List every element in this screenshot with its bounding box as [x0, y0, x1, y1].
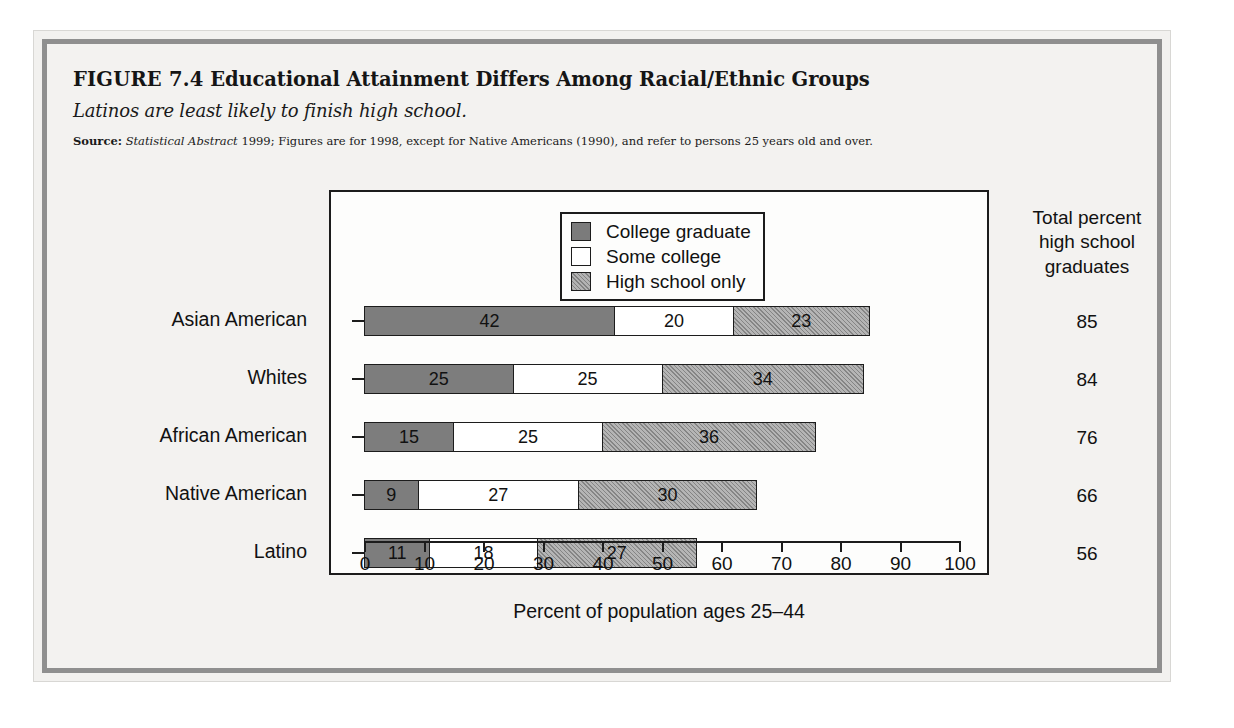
- figure-source: Source: Statistical Abstract 1999; Figur…: [73, 134, 1137, 148]
- bar-segment-african-american-high-school-only: 36: [602, 422, 816, 452]
- y-tick-whites: [352, 378, 364, 380]
- bar-segment-whites-some-college: 25: [513, 364, 662, 394]
- bar-value-native-american-college-graduate: 9: [386, 486, 396, 504]
- bar-row-african-american: 15 25 36: [364, 422, 816, 452]
- chart-plot-area: College graduate Some college High schoo…: [329, 190, 989, 575]
- totals-column-header: Total percent high school graduates: [997, 206, 1177, 279]
- bar-value-whites-some-college: 25: [578, 370, 598, 388]
- bar-value-whites-high-school-only: 34: [753, 370, 773, 388]
- bar-row-native-american: 9 27 30: [364, 480, 757, 510]
- x-tick-label-60: 60: [711, 553, 732, 575]
- y-tick-african-american: [352, 436, 364, 438]
- x-tick-label-30: 30: [533, 553, 554, 575]
- bar-value-latino-college-graduate: 11: [388, 544, 407, 562]
- bar-segment-asian-american-high-school-only: 23: [733, 306, 870, 336]
- x-tick-label-80: 80: [830, 553, 851, 575]
- figure-inner-border: FIGURE 7.4 Educational Attainment Differ…: [42, 39, 1162, 673]
- x-tick-20: [483, 541, 485, 552]
- x-tick-label-90: 90: [890, 553, 911, 575]
- figure-title: FIGURE 7.4 Educational Attainment Differ…: [73, 68, 1137, 91]
- x-tick-90: [900, 541, 902, 552]
- bar-segment-native-american-college-graduate: 9: [364, 480, 418, 510]
- bar-value-asian-american-some-college: 20: [664, 312, 684, 330]
- total-value-latino: 56: [997, 544, 1177, 563]
- bar-value-native-american-some-college: 27: [488, 486, 508, 504]
- x-tick-label-0: 0: [360, 553, 371, 575]
- x-tick-label-20: 20: [473, 553, 494, 575]
- total-value-asian-american: 85: [997, 312, 1177, 331]
- bar-row-asian-american: 42 20 23: [364, 306, 870, 336]
- bar-segment-asian-american-some-college: 20: [614, 306, 733, 336]
- bar-segment-whites-high-school-only: 34: [662, 364, 864, 394]
- bar-segment-native-american-high-school-only: 30: [578, 480, 757, 510]
- bar-segment-african-american-college-graduate: 15: [364, 422, 453, 452]
- y-tick-native-american: [352, 494, 364, 496]
- total-value-whites: 84: [997, 370, 1177, 389]
- totals-column: Total percent high school graduates 85 8…: [997, 190, 1177, 575]
- x-axis-title: Percent of population ages 25–44: [329, 600, 989, 623]
- bar-value-whites-college-graduate: 25: [429, 370, 449, 388]
- x-tick-label-40: 40: [592, 553, 613, 575]
- bar-value-african-american-college-graduate: 15: [399, 428, 419, 446]
- figure-subtitle: Latinos are least likely to finish high …: [73, 100, 1137, 121]
- source-detail: 1999; Figures are for 1998, except for N…: [241, 134, 872, 148]
- bar-value-african-american-high-school-only: 36: [699, 428, 719, 446]
- x-tick-70: [781, 541, 783, 552]
- category-label-asian-american: Asian American: [172, 310, 307, 330]
- category-label-latino: Latino: [254, 542, 307, 562]
- x-tick-label-100: 100: [944, 553, 976, 575]
- category-label-african-american: African American: [160, 426, 307, 446]
- x-tick-40: [602, 541, 604, 552]
- bar-value-native-american-high-school-only: 30: [657, 486, 677, 504]
- category-axis-labels: Asian American Whites African American N…: [67, 190, 319, 575]
- figure-header: FIGURE 7.4 Educational Attainment Differ…: [73, 68, 1137, 148]
- totals-header-line-3: graduates: [997, 255, 1177, 279]
- x-tick-30: [543, 541, 545, 552]
- category-label-native-american: Native American: [165, 484, 307, 504]
- x-tick-80: [840, 541, 842, 552]
- bar-segment-asian-american-college-graduate: 42: [364, 306, 614, 336]
- totals-header-line-1: Total percent: [997, 206, 1177, 230]
- total-value-african-american: 76: [997, 428, 1177, 447]
- x-tick-label-10: 10: [414, 553, 435, 575]
- figure-outer-frame: FIGURE 7.4 Educational Attainment Differ…: [33, 30, 1171, 682]
- total-value-native-american: 66: [997, 486, 1177, 505]
- x-tick-60: [721, 541, 723, 552]
- x-tick-100: [959, 541, 961, 552]
- source-publication: Statistical Abstract: [126, 134, 238, 148]
- bar-value-african-american-some-college: 25: [518, 428, 538, 446]
- bar-segment-african-american-some-college: 25: [453, 422, 602, 452]
- figure-title-text: Educational Attainment Differs Among Rac…: [210, 68, 870, 91]
- y-tick-asian-american: [352, 320, 364, 322]
- bar-value-asian-american-college-graduate: 42: [479, 312, 499, 330]
- x-tick-0: [364, 541, 366, 552]
- bar-segment-native-american-some-college: 27: [418, 480, 579, 510]
- x-tick-label-50: 50: [652, 553, 673, 575]
- x-tick-label-70: 70: [771, 553, 792, 575]
- category-label-whites: Whites: [247, 368, 307, 388]
- x-tick-50: [662, 541, 664, 552]
- x-tick-10: [424, 541, 426, 552]
- bars-layer: 42 20 23 25: [331, 192, 987, 573]
- figure-number: FIGURE 7.4: [73, 68, 203, 91]
- figure-body: FIGURE 7.4 Educational Attainment Differ…: [47, 44, 1157, 668]
- bar-value-asian-american-high-school-only: 23: [791, 312, 811, 330]
- totals-header-line-2: high school: [997, 230, 1177, 254]
- source-label: Source:: [73, 134, 122, 148]
- bar-row-whites: 25 25 34: [364, 364, 864, 394]
- bar-segment-whites-college-graduate: 25: [364, 364, 513, 394]
